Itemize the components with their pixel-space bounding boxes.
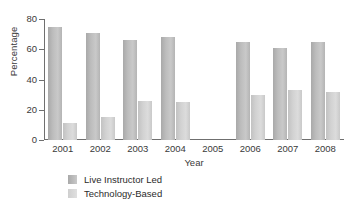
- bar: [123, 40, 137, 140]
- legend-item: Live Instructor Led: [68, 172, 162, 186]
- legend-swatch-icon: [68, 189, 77, 198]
- bar: [251, 95, 265, 140]
- bar: [48, 27, 62, 140]
- bar: [236, 42, 250, 140]
- y-axis-tick: [39, 49, 44, 50]
- bar: [273, 48, 287, 140]
- y-axis-tick: [39, 80, 44, 81]
- bar-chart: Percentage 020406080 2001200220032004200…: [0, 0, 354, 205]
- bar: [101, 117, 115, 140]
- y-axis-tick-label: 0: [13, 135, 37, 145]
- bar: [326, 92, 340, 140]
- x-axis-tick-label: 2001: [43, 143, 83, 154]
- legend-swatch-icon: [68, 175, 77, 184]
- legend-item-label: Live Instructor Led: [84, 174, 162, 185]
- y-axis-tick-label: 40: [13, 75, 37, 85]
- x-axis-tick-label: 2006: [230, 143, 270, 154]
- bar: [288, 90, 302, 140]
- bar: [86, 33, 100, 140]
- x-axis-tick-label: 2005: [193, 143, 233, 154]
- bar: [161, 37, 175, 140]
- y-axis-tick: [39, 110, 44, 111]
- bar: [311, 42, 325, 140]
- y-axis-tick-label: 20: [13, 105, 37, 115]
- y-axis-tick-label: 60: [13, 44, 37, 54]
- chart-legend: Live Instructor LedTechnology-Based: [68, 172, 162, 200]
- y-axis-line: [44, 19, 45, 140]
- x-axis-tick-label: 2002: [80, 143, 120, 154]
- legend-item: Technology-Based: [68, 186, 162, 200]
- x-axis-tick-label: 2008: [305, 143, 345, 154]
- y-axis-tick: [39, 19, 44, 20]
- x-axis-tick-label: 2004: [155, 143, 195, 154]
- x-axis-title: Year: [44, 157, 344, 168]
- y-axis-tick: [39, 140, 44, 141]
- x-axis-tick-label: 2007: [268, 143, 308, 154]
- bar: [138, 101, 152, 140]
- bar: [176, 102, 190, 140]
- bar: [63, 123, 77, 140]
- legend-item-label: Technology-Based: [84, 188, 162, 199]
- y-axis-tick-label: 80: [13, 14, 37, 24]
- x-axis-tick-label: 2003: [118, 143, 158, 154]
